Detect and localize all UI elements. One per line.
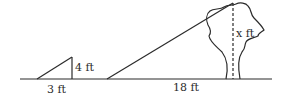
small-height-label: 4 ft xyxy=(75,61,95,74)
large-base-label: 18 ft xyxy=(173,81,200,94)
diagram-canvas: 4 ft 3 ft 18 ft x ft xyxy=(0,0,285,97)
large-triangle-hypotenuse xyxy=(107,3,233,79)
small-base-label: 3 ft xyxy=(47,83,67,96)
small-triangle-hypotenuse xyxy=(37,57,72,79)
tree-height-label: x ft xyxy=(236,27,255,40)
